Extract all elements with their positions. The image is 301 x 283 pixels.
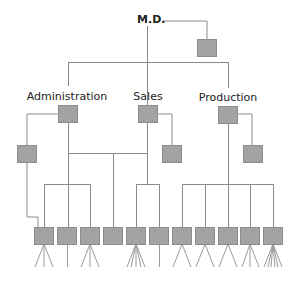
org-chart — [0, 0, 301, 283]
unit-box — [219, 228, 238, 245]
md-assistant-box — [198, 40, 217, 57]
administration-staff-box — [18, 146, 37, 163]
fan-lines — [35, 244, 282, 267]
unit-box — [127, 228, 146, 245]
unit-box — [58, 228, 77, 245]
unit-box — [35, 228, 54, 245]
unit-box — [150, 228, 169, 245]
unit-box — [104, 228, 123, 245]
sales-label: Sales — [133, 91, 162, 103]
unit-box — [196, 228, 215, 245]
boxes — [18, 40, 283, 245]
sales-box — [139, 106, 158, 123]
production-label: Production — [199, 92, 258, 104]
administration-label: Administration — [27, 91, 108, 103]
unit-box — [173, 228, 192, 245]
unit-box — [241, 228, 260, 245]
unit-box — [81, 228, 100, 245]
production-box — [219, 107, 238, 124]
sales-staff-box — [163, 146, 182, 163]
md-label: M.D. — [137, 14, 165, 26]
production-staff-box — [244, 146, 263, 163]
unit-box — [264, 228, 283, 245]
administration-box — [59, 106, 78, 123]
